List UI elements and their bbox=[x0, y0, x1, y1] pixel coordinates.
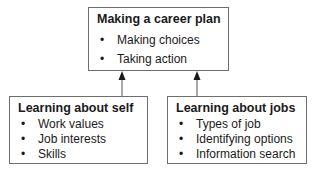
list-item: Work values bbox=[18, 117, 147, 132]
learning-about-jobs-list: Types of job Identifying options Informa… bbox=[176, 117, 306, 162]
career-plan-box: Making a career plan Making choices Taki… bbox=[88, 7, 229, 71]
arrowhead-icon bbox=[119, 71, 126, 80]
learning-about-self-box: Learning about self Work values Job inte… bbox=[9, 96, 148, 164]
arrowhead-icon bbox=[194, 71, 201, 80]
list-item: Skills bbox=[18, 147, 147, 162]
list-item: Identifying options bbox=[176, 132, 306, 147]
list-item: Making choices bbox=[97, 31, 228, 50]
learning-about-self-title: Learning about self bbox=[18, 101, 147, 116]
career-plan-title: Making a career plan bbox=[97, 12, 228, 27]
list-item: Taking action bbox=[97, 50, 228, 69]
learning-about-self-list: Work values Job interests Skills bbox=[18, 117, 147, 162]
learning-about-jobs-box: Learning about jobs Types of job Identif… bbox=[167, 96, 307, 164]
learning-about-jobs-title: Learning about jobs bbox=[176, 101, 306, 116]
list-item: Job interests bbox=[18, 132, 147, 147]
list-item: Information search bbox=[176, 147, 306, 162]
career-plan-list: Making choices Taking action bbox=[97, 31, 228, 69]
list-item: Types of job bbox=[176, 117, 306, 132]
